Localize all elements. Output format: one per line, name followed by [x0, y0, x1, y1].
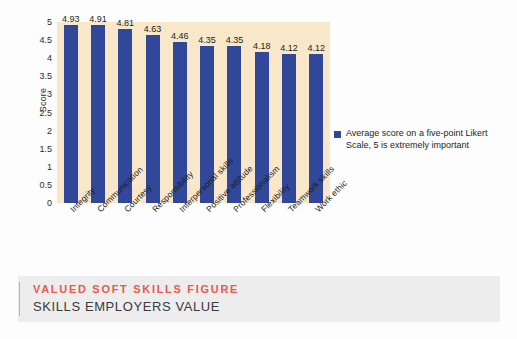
bar-value-label: 4.35 — [198, 35, 216, 45]
bar-slot: 4.91 — [84, 22, 111, 203]
bar-value-label: 4.91 — [89, 14, 107, 24]
bar-value-label: 4.12 — [308, 43, 326, 53]
legend-label: Average score on a five-point Likert Sca… — [346, 128, 510, 151]
y-tick-label: 4 — [22, 53, 52, 63]
y-tick-label: 0.5 — [22, 180, 52, 190]
valued-soft-skills-chart: Score 00.511.522.533.544.55 4.934.914.81… — [0, 0, 517, 270]
bar-slot: 4.93 — [57, 22, 84, 203]
y-tick-label: 1 — [22, 162, 52, 172]
y-tick-label: 4.5 — [22, 35, 52, 45]
bar — [64, 25, 78, 203]
bar-value-label: 4.18 — [253, 41, 271, 51]
y-tick-label: 0 — [22, 198, 52, 208]
y-tick-label: 2.5 — [22, 108, 52, 118]
bar-value-label: 4.46 — [171, 31, 189, 41]
bar-value-label: 4.63 — [144, 24, 162, 34]
chart-legend: Average score on a five-point Likert Sca… — [334, 128, 510, 151]
y-tick-label: 5 — [22, 17, 52, 27]
bar-value-label: 4.81 — [116, 18, 134, 28]
caption-kicker: VALUED SOFT SKILLS FIGURE — [33, 283, 239, 295]
caption-title: SKILLS EMPLOYERS VALUE — [33, 299, 220, 314]
bar — [91, 25, 105, 203]
bar-slot: 4.12 — [275, 22, 302, 203]
caption-divider-rule — [19, 282, 20, 316]
bar-value-label: 4.12 — [280, 43, 298, 53]
y-tick-label: 1.5 — [22, 144, 52, 154]
y-axis-tick-labels: 00.511.522.533.544.55 — [22, 22, 52, 203]
y-tick-label: 3 — [22, 89, 52, 99]
bar-value-label: 4.93 — [62, 14, 80, 24]
x-axis-category-labels: IntegrityCommunicationCourtesyResponsibi… — [57, 205, 330, 267]
bar-slot: 4.63 — [139, 22, 166, 203]
bar-value-label: 4.35 — [226, 35, 244, 45]
y-tick-label: 3.5 — [22, 71, 52, 81]
legend-swatch-icon — [334, 131, 341, 138]
bar — [146, 35, 160, 203]
y-tick-label: 2 — [22, 126, 52, 136]
